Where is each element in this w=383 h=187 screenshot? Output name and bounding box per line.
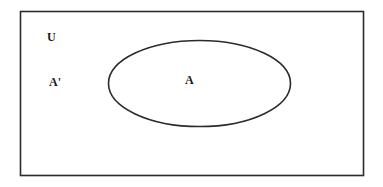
complement-label: A' <box>49 75 61 89</box>
set-a-ellipse <box>109 41 291 127</box>
universal-set-rectangle <box>21 12 364 176</box>
set-a-label: A <box>185 73 194 87</box>
universal-set-label: U <box>47 30 56 44</box>
venn-diagram: U A' A <box>0 0 383 187</box>
